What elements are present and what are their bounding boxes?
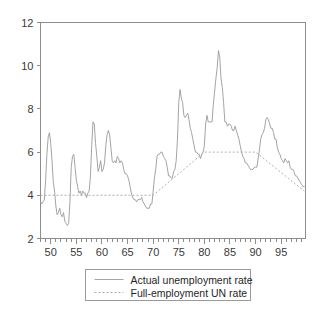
x-tick-label: 75 (173, 246, 185, 258)
x-tick-label: 50 (45, 246, 57, 258)
series-line-actual-unemployment-rate (41, 51, 305, 226)
chart-legend: Actual unemployment rateFull-employment … (86, 270, 253, 301)
x-axis-tick-labels: 50556065707580859095 (45, 246, 288, 258)
series-layer (41, 51, 305, 226)
y-tick-label: 4 (27, 189, 33, 201)
x-tick-label: 95 (275, 246, 287, 258)
legend-label: Full-employment UN rate (131, 287, 248, 299)
unemployment-rate-chart: 24681012 50556065707580859095 Actual une… (0, 0, 323, 312)
series-line-full-employment-rate (41, 152, 305, 195)
y-tick-label: 10 (21, 60, 33, 72)
x-tick-label: 90 (249, 246, 261, 258)
y-tick-label: 8 (27, 103, 33, 115)
x-tick-label: 55 (70, 246, 82, 258)
x-tick-label: 65 (121, 246, 133, 258)
y-tick-label: 12 (21, 17, 33, 29)
legend-label: Actual unemployment rate (131, 274, 253, 286)
y-tick-label: 6 (27, 146, 33, 158)
x-tick-label: 80 (198, 246, 210, 258)
x-tick-label: 70 (147, 246, 159, 258)
y-axis-ticks (37, 23, 41, 239)
y-tick-label: 2 (27, 233, 33, 245)
plot-frame (41, 23, 306, 239)
x-tick-label: 60 (96, 246, 108, 258)
x-tick-label: 85 (224, 246, 236, 258)
x-axis-ticks (41, 239, 302, 244)
chart-canvas: 24681012 50556065707580859095 Actual une… (0, 0, 323, 312)
plot-border (41, 23, 306, 239)
y-axis-tick-labels: 24681012 (21, 17, 33, 245)
